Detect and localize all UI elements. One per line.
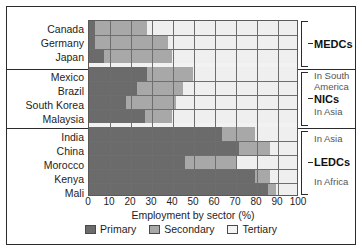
- segment-secondary: [137, 81, 183, 95]
- segment-primary: [89, 155, 185, 169]
- x-tick-30: 30: [145, 196, 156, 207]
- brace-stem-medcs: [308, 43, 313, 44]
- legend-item-tertiary: Tertiary: [227, 223, 276, 235]
- category-label-canada: Canada: [47, 23, 84, 35]
- brace-stem-ledcs: [308, 162, 313, 163]
- segment-secondary: [185, 155, 237, 169]
- gridline-40: [173, 21, 174, 195]
- group-note-nics-america: America: [314, 82, 349, 93]
- segment-primary: [89, 67, 147, 81]
- gridline-90: [278, 21, 279, 195]
- gridline-70: [236, 21, 237, 195]
- legend-label-secondary: Secondary: [164, 223, 214, 235]
- x-tick-60: 60: [208, 196, 219, 207]
- gridline-60: [215, 21, 216, 195]
- legend-label-tertiary: Tertiary: [242, 223, 276, 235]
- category-label-japan: Japan: [55, 51, 84, 63]
- gridline-20: [131, 21, 132, 195]
- segment-primary: [89, 49, 104, 63]
- x-tick-10: 10: [103, 196, 114, 207]
- segment-primary: [89, 141, 239, 155]
- category-label-mexico: Mexico: [51, 71, 84, 83]
- x-tick-50: 50: [187, 196, 198, 207]
- legend-label-primary: Primary: [100, 223, 136, 235]
- group-name-medcs: MEDCs: [314, 38, 353, 50]
- segment-tertiary: [276, 183, 297, 196]
- segment-secondary: [255, 169, 270, 183]
- segment-secondary: [239, 141, 270, 155]
- x-tick-90: 90: [271, 196, 282, 207]
- segment-secondary: [222, 127, 255, 141]
- legend-item-secondary: Secondary: [149, 223, 214, 235]
- gridline-10: [110, 21, 111, 195]
- segment-secondary: [268, 183, 276, 196]
- segment-secondary: [95, 35, 168, 49]
- segment-primary: [89, 95, 126, 109]
- x-tick-40: 40: [166, 196, 177, 207]
- group-note-ledcs-in-asia: In Asia: [314, 134, 343, 145]
- category-label-south-korea: South Korea: [26, 99, 84, 111]
- category-label-china: China: [57, 145, 84, 157]
- category-label-morocco: Morocco: [44, 159, 84, 171]
- segment-tertiary: [183, 81, 297, 95]
- segment-secondary: [147, 67, 193, 81]
- segment-tertiary: [237, 155, 297, 169]
- category-label-malaysia: Malaysia: [43, 113, 84, 125]
- gridline-50: [194, 21, 195, 195]
- chart-figure: Canada Germany Japan Mexico Brazil South…: [6, 6, 356, 245]
- legend-swatch-primary: [85, 225, 96, 234]
- segment-tertiary: [270, 169, 297, 183]
- segment-secondary: [95, 21, 147, 35]
- group-note-nics-in-south: In South: [314, 71, 349, 82]
- segment-secondary: [104, 49, 173, 63]
- x-tick-0: 0: [85, 196, 91, 207]
- plot-area: [88, 20, 298, 196]
- gridline-80: [257, 21, 258, 195]
- segment-tertiary: [193, 67, 297, 81]
- segment-tertiary: [147, 21, 297, 35]
- category-label-india: India: [61, 131, 84, 143]
- category-label-mali: Mali: [65, 187, 84, 199]
- segment-tertiary: [255, 127, 297, 141]
- segment-primary: [89, 109, 145, 123]
- group-note-ledcs-in-africa: In Africa: [314, 177, 348, 188]
- group-name-nics: NICs: [314, 93, 339, 105]
- x-axis-title: Employment by sector (%): [88, 209, 298, 221]
- brace-stem-nics: [308, 98, 313, 99]
- segment-tertiary: [270, 141, 297, 155]
- category-label-brazil: Brazil: [58, 85, 84, 97]
- legend-swatch-secondary: [149, 225, 160, 234]
- group-note-nics-in-asia: In Asia: [314, 107, 343, 118]
- gridline-30: [152, 21, 153, 195]
- brace-ledcs: [301, 131, 308, 195]
- segment-secondary: [145, 109, 172, 123]
- x-tick-80: 80: [250, 196, 261, 207]
- x-tick-20: 20: [124, 196, 135, 207]
- legend-swatch-tertiary: [227, 225, 238, 234]
- category-label-germany: Germany: [41, 37, 84, 49]
- category-label-kenya: Kenya: [54, 173, 84, 185]
- brace-nics: [301, 72, 308, 126]
- x-tick-70: 70: [229, 196, 240, 207]
- legend-item-primary: Primary: [85, 223, 136, 235]
- brace-medcs: [301, 21, 308, 67]
- segment-primary: [89, 183, 268, 196]
- x-axis: 0102030405060708090100: [88, 196, 298, 210]
- group-annotations: MEDCs In South America NICs In Asia In A…: [299, 7, 357, 244]
- group-name-ledcs: LEDCs: [314, 156, 350, 168]
